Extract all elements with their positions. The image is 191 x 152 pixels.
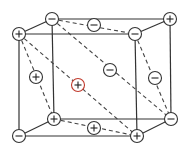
bottom-face-ion-positive-ion: [88, 122, 101, 135]
left-face-ion-positive-ion: [30, 71, 43, 84]
front-bottom-right-positive-ion: [131, 130, 144, 143]
unit-cell-diagram: [0, 0, 191, 152]
front-top-left-positive-ion: [13, 28, 26, 41]
right-face-ion-negative-ion: [149, 72, 162, 85]
center-ion-positive-ion: [72, 79, 85, 92]
front-bottom-left-negative-ion: [13, 130, 26, 143]
front-top-right-negative-ion: [129, 28, 142, 41]
diagonal-ion-negative-ion: [104, 64, 117, 77]
ions: [13, 13, 178, 143]
back-top-right-positive-ion: [164, 13, 177, 26]
back-bottom-right-negative-ion: [165, 113, 178, 126]
cube-edge: [135, 34, 137, 136]
lattice-svg: [0, 0, 191, 152]
back-top-left-negative-ion: [46, 13, 59, 26]
back-bottom-left-positive-ion: [48, 113, 61, 126]
cube-edge: [170, 19, 171, 119]
top-face-ion-negative-ion: [88, 19, 101, 32]
